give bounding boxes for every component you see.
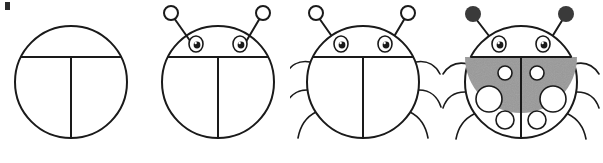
spot-right-middle	[540, 86, 566, 112]
left-eye	[189, 36, 203, 52]
right-eye	[233, 36, 247, 52]
spot-right-top	[530, 66, 544, 80]
left-antenna-tip-icon	[309, 6, 323, 20]
spot-left-bottom	[496, 111, 514, 129]
spot-right-bottom	[528, 111, 546, 129]
right-antenna-tip-icon	[401, 6, 415, 20]
left-eye	[492, 36, 506, 52]
spot-left-top	[498, 66, 512, 80]
tutorial-step-2-panel	[148, 0, 298, 163]
left-antenna-tip-icon	[164, 6, 178, 20]
spot-left-middle	[476, 86, 502, 112]
right-antenna-tip-icon	[558, 6, 574, 22]
right-eye	[536, 36, 550, 52]
tutorial-step-1-panel	[0, 0, 150, 163]
left-eye	[334, 36, 348, 52]
tutorial-step-3-panel	[290, 0, 445, 163]
right-eye	[378, 36, 392, 52]
drawing-tutorial-strip	[0, 0, 603, 163]
left-antenna-tip-icon	[465, 6, 481, 22]
right-antenna-tip-icon	[256, 6, 270, 20]
tutorial-step-4-panel	[440, 0, 603, 163]
